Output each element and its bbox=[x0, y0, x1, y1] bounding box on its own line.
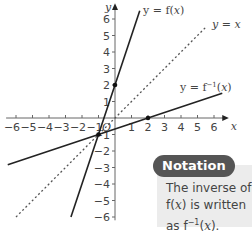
y-tick-label: −4 bbox=[94, 178, 110, 191]
x-tick-label: 2 bbox=[145, 121, 152, 134]
y-tick-label: 4 bbox=[103, 46, 110, 59]
x-axis-arrow-icon bbox=[222, 115, 229, 121]
x-tick-label: 6 bbox=[211, 121, 218, 134]
point-marker bbox=[113, 83, 118, 88]
y-tick-label: 6 bbox=[103, 13, 110, 26]
x-tick-label: 3 bbox=[161, 121, 168, 134]
y-axis-arrow-icon bbox=[112, 3, 118, 10]
y-tick-label: −3 bbox=[94, 162, 110, 175]
label-f: y = f(x) bbox=[142, 4, 184, 17]
y-tick-label: 2 bbox=[103, 79, 110, 92]
x-tick-label: −2 bbox=[70, 121, 86, 134]
x-tick-label: −5 bbox=[20, 121, 36, 134]
notation-text: The inverse of f(x) is written as f−1(x)… bbox=[166, 180, 252, 235]
point-marker bbox=[96, 132, 101, 137]
y-tick-label: −2 bbox=[94, 145, 110, 158]
x-tick-label: −4 bbox=[37, 121, 53, 134]
x-axis-label: x bbox=[231, 120, 238, 133]
x-tick-label: −3 bbox=[53, 121, 69, 134]
x-tick-label: 4 bbox=[178, 121, 185, 134]
x-tick-label: −6 bbox=[4, 121, 20, 134]
y-tick-label: −5 bbox=[94, 195, 110, 208]
y-tick-label: 5 bbox=[103, 30, 110, 43]
notation-line-2: f(x) is written bbox=[166, 197, 252, 214]
curve-labels: y = f(x)y = xy = f−1(x) bbox=[142, 4, 241, 94]
label-identity: y = x bbox=[211, 18, 241, 31]
y-tick-label: −6 bbox=[94, 211, 110, 224]
notation-line-3: as f−1(x). bbox=[166, 214, 252, 235]
label-finv: y = f−1(x) bbox=[179, 81, 232, 94]
x-tick-label: 5 bbox=[194, 121, 201, 134]
y-axis-label: y bbox=[104, 1, 112, 14]
notation-line-1: The inverse of bbox=[166, 180, 252, 197]
notation-badge: Notation bbox=[153, 155, 235, 177]
point-marker bbox=[146, 116, 151, 121]
y-tick-label: 3 bbox=[103, 63, 110, 76]
